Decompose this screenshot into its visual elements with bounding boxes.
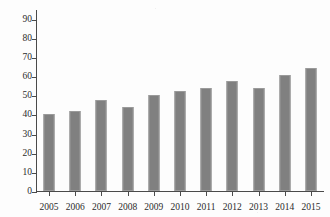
y-tick-mark — [32, 39, 37, 40]
y-tick-mark — [32, 77, 37, 78]
bar — [96, 100, 107, 191]
y-tick-mark — [32, 192, 37, 193]
y-tick-label: 0 — [27, 185, 32, 198]
y-tick-mark — [32, 135, 37, 136]
y-tick-label: 50 — [23, 89, 33, 102]
x-tick-label: 2006 — [66, 202, 85, 212]
y-tick-mark — [32, 115, 37, 116]
y-tick-label: 30 — [23, 128, 33, 141]
x-tick-label: 2011 — [197, 202, 216, 212]
x-tick-mark — [154, 192, 155, 196]
y-tick-mark — [32, 96, 37, 97]
x-tick-mark — [101, 192, 102, 196]
x-tick-label: 2013 — [249, 202, 268, 212]
plot-area: 0102030405060708090 20052006200720082009… — [36, 10, 324, 192]
x-tick-mark — [180, 192, 181, 196]
x-tick-label: 2008 — [118, 202, 137, 212]
bar — [44, 114, 55, 191]
y-tick-mark — [32, 20, 37, 21]
x-tick-mark — [311, 192, 312, 196]
y-tick-label: 80 — [23, 32, 33, 45]
y-tick-label: 40 — [23, 108, 33, 121]
y-tick-mark — [32, 173, 37, 174]
y-tick-label: 60 — [23, 70, 33, 83]
y-tick-mark — [32, 58, 37, 59]
y-axis-line — [36, 10, 37, 192]
x-tick-label: 2015 — [301, 202, 320, 212]
x-tick-label: 2005 — [40, 202, 59, 212]
x-tick-mark — [49, 192, 50, 196]
bar — [175, 91, 186, 191]
chart-figure: 0102030405060708090 20052006200720082009… — [0, 0, 330, 217]
x-tick-mark — [259, 192, 260, 196]
x-tick-label: 2009 — [144, 202, 163, 212]
x-tick-mark — [128, 192, 129, 196]
bar — [253, 88, 264, 191]
y-tick-mark — [32, 154, 37, 155]
x-tick-mark — [206, 192, 207, 196]
x-tick-label: 2010 — [171, 202, 190, 212]
x-tick-mark — [75, 192, 76, 196]
bar — [227, 81, 238, 191]
bar — [279, 75, 290, 191]
bar — [148, 95, 159, 191]
x-tick-label: 2014 — [275, 202, 294, 212]
y-tick-label: 90 — [23, 13, 33, 26]
bar — [305, 68, 316, 191]
bar — [70, 111, 81, 191]
x-tick-label: 2007 — [92, 202, 111, 212]
y-tick-label: 70 — [23, 51, 33, 64]
x-tick-mark — [285, 192, 286, 196]
x-tick-label: 2012 — [223, 202, 242, 212]
bar — [201, 88, 212, 191]
y-tick-label: 20 — [23, 147, 33, 160]
bar — [122, 107, 133, 191]
y-tick-label: 10 — [23, 166, 33, 179]
x-tick-mark — [232, 192, 233, 196]
